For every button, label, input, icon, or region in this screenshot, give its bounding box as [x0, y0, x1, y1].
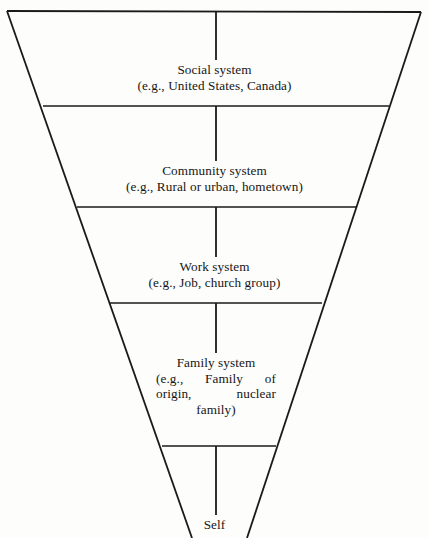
funnel-top-edge [7, 11, 421, 12]
tier-title-work: Work system [0, 259, 429, 275]
tier-title-self: Self [0, 517, 429, 533]
tier-title-social: Social system [0, 62, 429, 78]
tier-label-family: Family system (e.g., Family of origin, n… [156, 355, 276, 417]
funnel-diagram: Social system (e.g., United States, Cana… [0, 0, 429, 538]
tier-label-community: Community system (e.g., Rural or urban, … [0, 163, 429, 194]
tier-title-family: Family system [156, 355, 276, 371]
tier-label-social: Social system (e.g., United States, Cana… [0, 62, 429, 93]
tier-label-self: Self [0, 517, 429, 533]
tier-example-social: (e.g., United States, Canada) [0, 78, 429, 94]
tier-example-family: (e.g., Family of origin, nuclear family) [156, 371, 276, 418]
tier-title-community: Community system [0, 163, 429, 179]
tier-label-work: Work system (e.g., Job, church group) [0, 259, 429, 290]
tier-example-work: (e.g., Job, church group) [0, 275, 429, 291]
tier-example-community: (e.g., Rural or urban, hometown) [0, 179, 429, 195]
